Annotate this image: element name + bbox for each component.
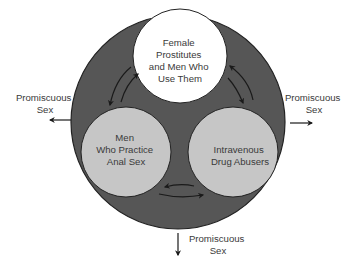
label-line: Sex	[210, 245, 227, 256]
label-line: Drug Abusers	[211, 156, 269, 167]
label-line: Use Them	[158, 73, 202, 84]
label-line: Promiscuous	[16, 92, 72, 103]
outflow-label-left: Promiscuous Sex	[16, 92, 74, 115]
label-line: Promiscuous	[189, 233, 245, 244]
label-line: Sex	[37, 104, 54, 115]
label-line: and Men Who	[149, 61, 209, 72]
outflow-label-right: Promiscuous Sex	[285, 92, 343, 115]
label-line: Prostitutes	[156, 49, 202, 60]
label-line: Sex	[306, 104, 323, 115]
label-line: Intravenous	[214, 144, 264, 155]
label-line: Who Practice	[96, 144, 153, 155]
outflow-label-bottom: Promiscuous Sex	[189, 233, 247, 256]
label-line: Men	[115, 132, 134, 143]
label-line: Female	[163, 37, 195, 48]
label-line: Promiscuous	[285, 92, 341, 103]
hiv-transmission-diagram: Female Prostitutes and Men Who Use Them …	[0, 0, 358, 271]
label-line: Anal Sex	[107, 156, 146, 167]
group-label-idu: Intravenous Drug Abusers	[211, 144, 269, 167]
